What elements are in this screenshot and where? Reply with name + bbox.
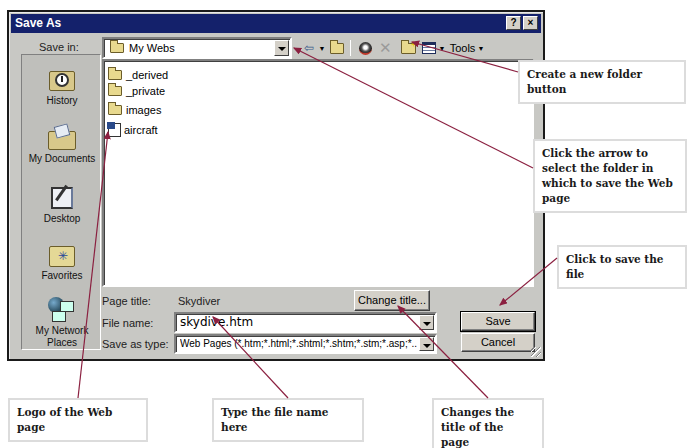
delete-icon[interactable]: ✕	[376, 39, 394, 57]
views-dropdown-icon[interactable]: ▼	[438, 39, 446, 57]
folder-icon	[108, 86, 122, 96]
callout-save-file: Click to save the file	[557, 245, 687, 289]
file-item-derived[interactable]: _derived	[108, 67, 168, 83]
folder-icon	[108, 70, 122, 80]
resize-grip[interactable]	[531, 347, 541, 357]
places-bar: History My Documents Desktop ✳ Favorites	[21, 54, 101, 350]
toolbar-separator	[350, 40, 351, 56]
save-button[interactable]: Save	[461, 312, 535, 331]
save-in-label: Save in:	[39, 41, 79, 53]
save-as-type-dropdown[interactable]: Web Pages (*.htm;*.html;*.shtml;*.shtm;*…	[174, 334, 437, 354]
tools-menu[interactable]: Tools ▼	[447, 39, 487, 57]
callout-new-folder: Create a new folder button	[518, 60, 686, 104]
file-item-images[interactable]: images	[108, 102, 161, 118]
callout-logo: Logo of the Web page	[8, 398, 148, 442]
file-name-label: File name:	[102, 317, 153, 329]
back-arrow-icon[interactable]: ⇦	[299, 39, 319, 57]
callout-file-name: Type the file name here	[212, 398, 364, 442]
desktop-icon	[46, 183, 78, 211]
save-as-dialog: Save As ? × Save in: My Webs ⇦ ▼ ✕ ✶ ▼ T…	[7, 10, 545, 361]
file-list[interactable]: _derived _private images aircraft	[102, 59, 534, 287]
save-as-type-label: Save as type:	[102, 338, 169, 350]
tools-dropdown-icon: ▼	[477, 45, 484, 52]
close-button[interactable]: ×	[523, 16, 538, 30]
place-desktop[interactable]: Desktop	[22, 183, 102, 224]
callout-change-title: Changes the title of the page	[432, 398, 544, 448]
title-bar: Save As ? ×	[11, 14, 541, 33]
cancel-button[interactable]: Cancel	[461, 333, 535, 352]
place-favorites[interactable]: ✳ Favorites	[22, 240, 102, 281]
search-web-icon[interactable]	[355, 39, 375, 57]
callout-select-folder: Click the arrow to select the folder in …	[533, 139, 687, 213]
file-name-value: skydive.htm	[180, 314, 253, 331]
place-label: Desktop	[44, 213, 81, 224]
web-page-icon	[108, 123, 121, 137]
back-dropdown-icon[interactable]: ▼	[318, 39, 326, 57]
history-icon	[46, 65, 78, 93]
file-name-input[interactable]: skydive.htm	[174, 312, 437, 333]
save-as-type-value: Web Pages (*.htm;*.html;*.shtml;*.shtm;*…	[180, 336, 417, 352]
place-my-network-places[interactable]: My Network Places	[22, 295, 102, 349]
place-history[interactable]: History	[22, 65, 102, 106]
save-as-type-dropdown-arrow[interactable]	[419, 337, 434, 351]
help-button[interactable]: ?	[506, 16, 521, 30]
file-name-dropdown-arrow[interactable]	[419, 315, 434, 330]
file-item-aircraft[interactable]: aircraft	[108, 122, 158, 138]
place-my-documents[interactable]: My Documents	[22, 123, 102, 164]
folder-icon	[108, 105, 122, 115]
save-in-value: My Webs	[129, 39, 175, 57]
change-title-button[interactable]: Change title...	[354, 290, 430, 311]
place-label: Favorites	[41, 270, 82, 281]
dialog-title: Save As	[15, 16, 61, 30]
file-item-private[interactable]: _private	[108, 83, 165, 99]
network-places-icon	[46, 295, 78, 323]
favorites-icon: ✳	[46, 240, 78, 268]
my-documents-icon	[46, 123, 78, 151]
tools-label: Tools	[450, 42, 476, 54]
save-in-dropdown[interactable]: My Webs	[102, 37, 292, 59]
page-title-value: Skydiver	[178, 295, 220, 307]
new-folder-icon[interactable]: ✶	[397, 39, 419, 57]
place-label: My Network Places	[22, 325, 102, 349]
page-title-label: Page title:	[102, 295, 151, 307]
folder-icon	[110, 43, 124, 53]
place-label: My Documents	[29, 153, 96, 164]
up-one-level-icon[interactable]	[327, 39, 347, 57]
place-label: History	[46, 95, 77, 106]
save-in-dropdown-arrow[interactable]	[274, 40, 289, 56]
views-icon[interactable]	[420, 39, 438, 57]
